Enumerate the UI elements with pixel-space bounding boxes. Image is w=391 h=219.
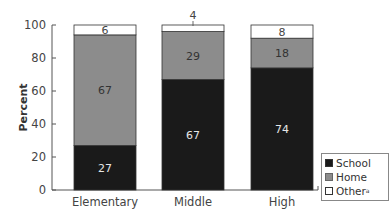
y-axis-label: Percent (17, 83, 30, 131)
y-tick-label: 60 (31, 84, 46, 98)
y-tick-label: 0 (39, 183, 46, 197)
bar-value-label: 4 (190, 9, 197, 22)
bar-value-label: 8 (279, 26, 286, 39)
bar-value-label: 6 (102, 24, 109, 37)
bar-value-label: 18 (275, 47, 289, 60)
bar-value-label: 67 (98, 84, 112, 97)
bar-value-label: 74 (275, 123, 289, 136)
bar-value-label: 29 (186, 50, 200, 63)
other-swatch-icon (325, 187, 333, 195)
y-tick-label: 80 (31, 51, 46, 65)
bar-value-label: 67 (186, 129, 200, 142)
y-tick-label: 40 (31, 117, 46, 131)
y-tick-label: 20 (31, 150, 46, 164)
chart-legend: School Home Othera (321, 153, 389, 201)
x-tick-label: Elementary (72, 195, 138, 209)
legend-item-home: Home (325, 170, 385, 184)
legend-item-other: Othera (325, 184, 385, 198)
x-tick-label: Middle (174, 195, 212, 209)
legend-item-school: School (325, 156, 385, 170)
x-tick-label: High (269, 195, 295, 209)
school-swatch-icon (325, 159, 333, 167)
y-tick-label: 100 (24, 18, 46, 32)
bar-value-label: 27 (98, 162, 112, 175)
home-swatch-icon (325, 173, 333, 181)
